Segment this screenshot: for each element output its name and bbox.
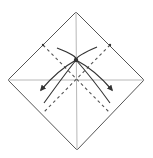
center-dot bbox=[74, 58, 78, 62]
edge-tick-right bbox=[109, 44, 111, 46]
diagram-canvas bbox=[0, 0, 153, 158]
edge-tick-left bbox=[42, 44, 44, 46]
